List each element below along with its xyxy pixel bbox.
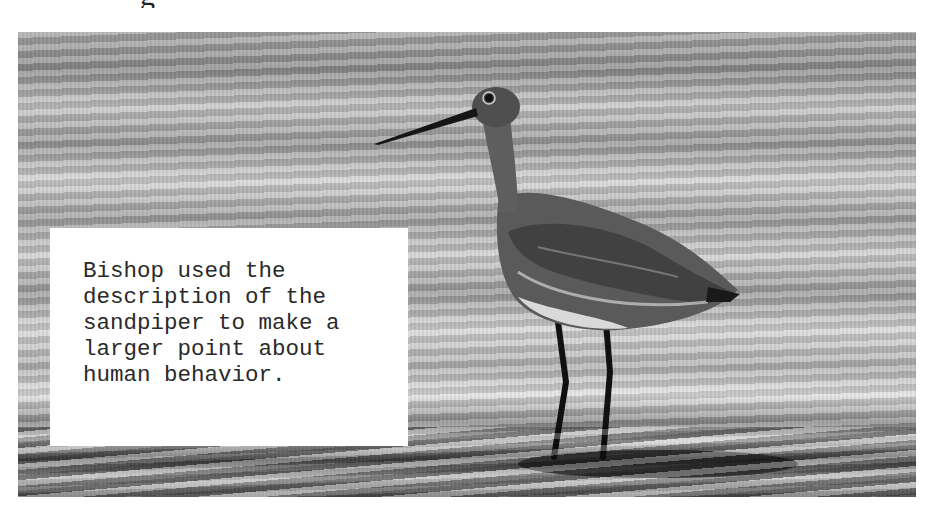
clipped-heading-fragment: g bbox=[0, 0, 620, 8]
caption-text: Bishop used the description of the sandp… bbox=[83, 258, 403, 388]
caption-box: Bishop used the description of the sandp… bbox=[50, 228, 408, 446]
clipped-heading-text: g bbox=[140, 0, 155, 8]
